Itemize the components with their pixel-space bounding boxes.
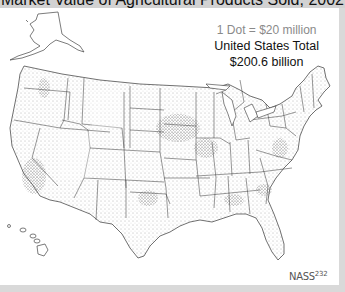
alaska-inset: [10, 12, 84, 60]
map-panel: 1 Dot = $20 million United States Total …: [0, 8, 339, 285]
continental-us: [10, 66, 330, 260]
source-credit: NASS232: [289, 270, 327, 282]
hawaii-inset: [8, 225, 49, 257]
credit-source: NASS: [289, 271, 315, 282]
map-title: Market Value of Agricultural Products So…: [0, 0, 345, 8]
total-value: $200.6 billion: [214, 54, 319, 70]
dot-scale-label: 1 Dot = $20 million: [214, 22, 319, 38]
map-legend: 1 Dot = $20 million United States Total …: [214, 22, 319, 70]
title-bar: Market Value of Agricultural Products So…: [0, 0, 345, 8]
credit-number: 232: [315, 270, 327, 278]
total-label: United States Total: [214, 38, 319, 54]
